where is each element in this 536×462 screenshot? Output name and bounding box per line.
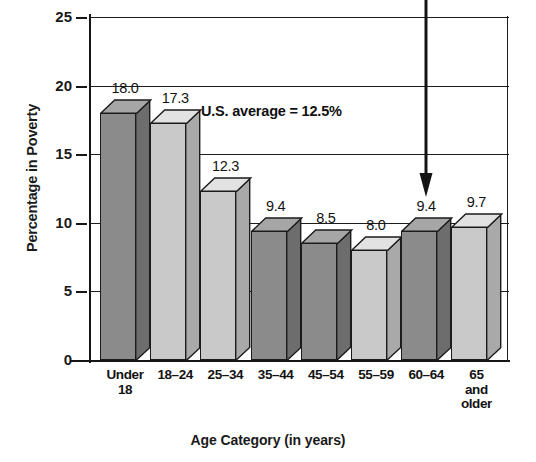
category-label-line: 65 — [446, 368, 506, 383]
y-tick-label: 0 — [38, 352, 72, 367]
y-tick-label: 10 — [38, 215, 72, 230]
category-label-line: older — [446, 397, 506, 412]
y-axis-tick-labels: 0510152025 — [38, 0, 72, 462]
y-tick-label: 15 — [38, 146, 72, 161]
y-tick-mark — [76, 17, 87, 19]
bar-side-face — [336, 230, 352, 362]
bar-front-face — [401, 231, 437, 360]
bar-front-face — [301, 243, 337, 360]
y-tick-mark — [76, 86, 87, 88]
bar-value-label: 18.0 — [100, 80, 150, 96]
bar-side-face — [386, 237, 402, 362]
bar-value-label: 8.0 — [351, 217, 401, 233]
y-tick-label: 25 — [38, 9, 72, 24]
bar-value-label: 8.5 — [301, 210, 351, 226]
pointer-arrow-icon — [418, 0, 434, 198]
bar-value-label: 9.4 — [251, 198, 301, 214]
y-tick-mark — [76, 291, 87, 293]
bar-front-face — [251, 231, 287, 360]
bar-value-label: 9.4 — [401, 198, 451, 214]
category-label-line: 18 — [95, 383, 155, 398]
bar-value-label: 9.7 — [451, 194, 501, 210]
y-tick-label: 20 — [38, 78, 72, 93]
y-tick-mark — [76, 223, 87, 225]
y-tick-label: 5 — [38, 283, 72, 298]
us-average-annotation: U.S. average = 12.5% — [201, 103, 342, 119]
bar-side-face — [235, 178, 251, 362]
bar-side-face — [286, 218, 302, 362]
bar-front-face — [351, 250, 387, 360]
bar-front-face — [150, 123, 186, 360]
bar-value-label: 17.3 — [150, 90, 200, 106]
category-label-8: 65andolder — [446, 368, 506, 412]
category-label-line: and — [446, 383, 506, 398]
bar-front-face — [200, 191, 236, 360]
bar-side-face — [436, 218, 452, 362]
y-tick-mark — [76, 154, 87, 156]
bar-value-label: 12.3 — [200, 158, 250, 174]
poverty-by-age-bar-chart: Percentage in Poverty 0510152025 Under18… — [0, 0, 536, 462]
bar-side-face — [185, 110, 201, 362]
x-axis-title: Age Category (in years) — [0, 432, 536, 448]
bar-front-face — [100, 113, 136, 360]
bar-side-face — [486, 214, 502, 362]
bar-front-face — [451, 227, 487, 360]
bar-side-face — [135, 100, 151, 362]
